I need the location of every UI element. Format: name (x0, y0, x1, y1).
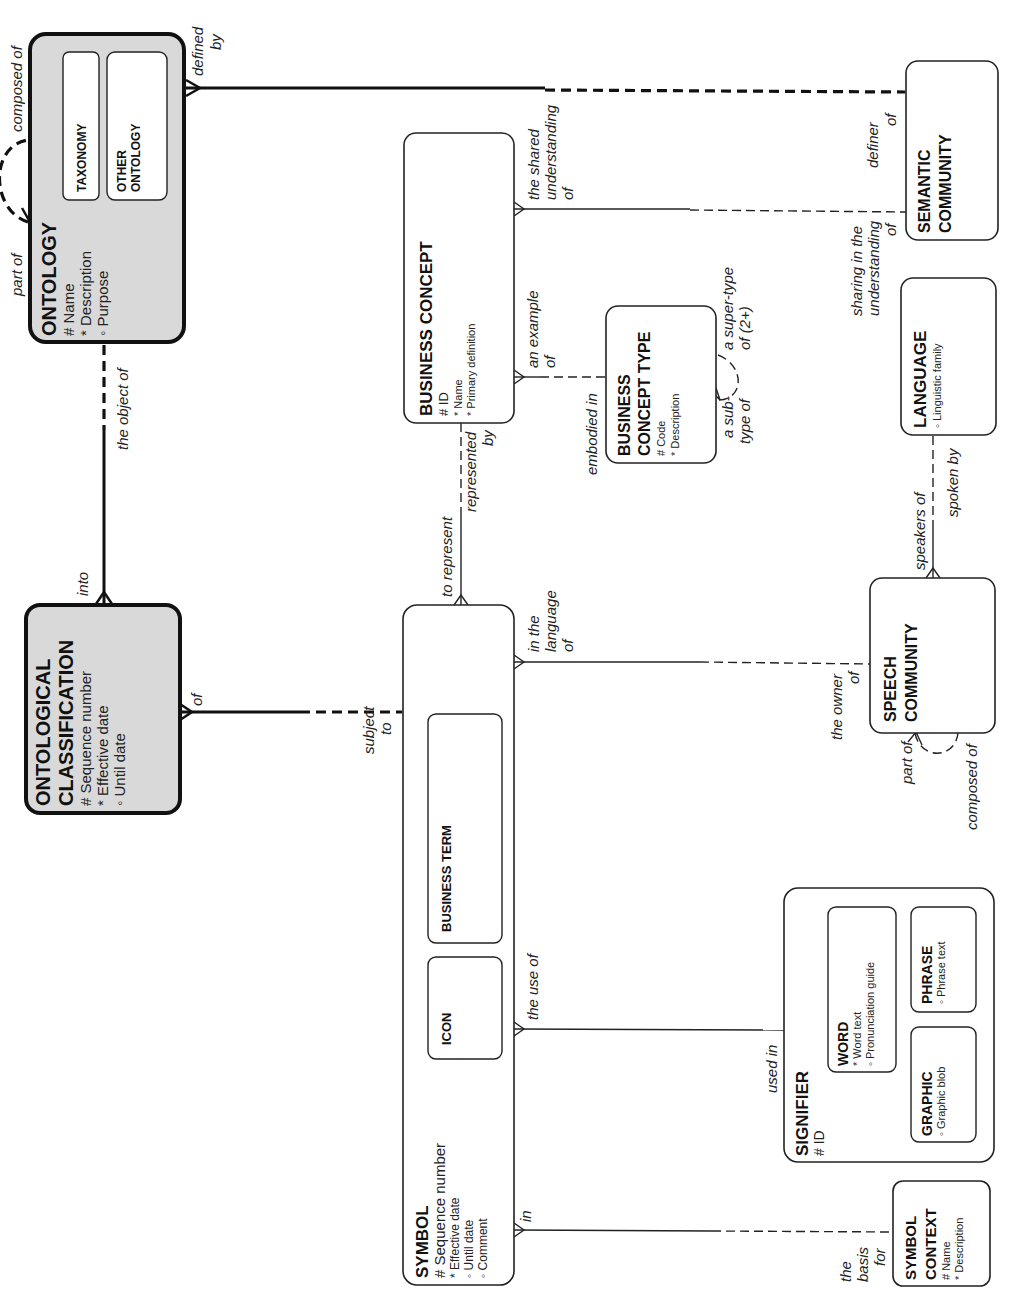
label-owner: the owner (828, 673, 845, 740)
concept-type-title-1: BUSINESS (616, 374, 633, 456)
classification-attr-until: ◦ Until date (111, 733, 128, 806)
label-of: of (188, 692, 205, 706)
rel-concept-semantic (514, 202, 906, 216)
label-owner-of: of (845, 670, 862, 684)
symbol-attr-effective: * Effective date (448, 1197, 462, 1278)
label-use-of: the use of (524, 952, 541, 1020)
phrase-attr-text: ◦ Phrase text (935, 941, 947, 1004)
symbol-context-attr-description: * Description (953, 1218, 965, 1280)
language-attr-family: ◦ Linguistic family (931, 343, 943, 428)
speech-community-title-2: COMMUNITY (903, 623, 920, 722)
business-term-title: BUSINESS TERM (439, 825, 454, 932)
rel-speech-self (908, 732, 958, 753)
label-into: into (74, 572, 91, 596)
entity-ontological-classification[interactable]: ONTOLOGICAL CLASSIFICATION # Sequence nu… (26, 605, 180, 813)
rel-symbol-speech (514, 655, 870, 669)
graphic-title: GRAPHIC (919, 1071, 935, 1136)
label-understanding-b-of: of (882, 222, 899, 236)
label-embodied-in: embodied in (583, 393, 600, 475)
phrase-title: PHRASE (919, 946, 935, 1004)
entity-ontology[interactable]: ONTOLOGY # Name * Description ◦ Purpose … (30, 34, 184, 342)
business-concept-attr-name: * Name (452, 379, 464, 416)
ontology-attr-purpose: ◦ Purpose (94, 271, 111, 336)
label-by: by (207, 33, 224, 50)
er-diagram: ONTOLOGY # Name * Description ◦ Purpose … (0, 0, 1020, 1291)
ontology-attr-name: # Name (60, 283, 77, 336)
classification-attr-seq: # Sequence number (77, 671, 94, 806)
business-concept-attr-definition: * Primary definition (465, 324, 477, 416)
label-language: language (542, 590, 559, 652)
business-concept-attr-id: # ID (436, 392, 451, 416)
entity-business-concept[interactable]: BUSINESS CONCEPT # ID * Name * Primary d… (404, 133, 514, 423)
signifier-attr-id: # ID (811, 1130, 827, 1156)
concept-type-attr-description: * Description (669, 394, 681, 456)
taxonomy-title: TAXONOMY (75, 124, 89, 192)
label-in-the: in the (525, 615, 542, 652)
graphic-attr-blob: ◦ Graphic blob (935, 1067, 947, 1136)
classification-title-2: CLASSIFICATION (55, 640, 77, 806)
label-the: the (837, 1261, 854, 1282)
label-sub: a sub- (719, 396, 736, 438)
label-speakers-of: speakers of (911, 491, 928, 570)
word-attr-pronunciation: ◦ Pronunciation guide (864, 962, 876, 1066)
label-understanding-b: understanding (865, 220, 882, 316)
speech-community-title-1: SPEECH (882, 656, 899, 722)
entity-semantic-community[interactable]: SEMANTIC COMMUNITY (906, 61, 998, 240)
word-title: WORD (835, 1022, 851, 1066)
concept-type-title-2: CONCEPT TYPE (636, 331, 653, 456)
entity-symbol[interactable]: ICON BUSINESS TERM SYMBOL # Sequence num… (403, 605, 514, 1285)
label-example-of: of (541, 354, 558, 368)
entity-language[interactable]: LANGUAGE ◦ Linguistic family (901, 278, 996, 435)
label-type-of: type of (736, 397, 753, 444)
word-attr-text: * Word text (851, 1012, 863, 1066)
label-subject-to: to (377, 722, 394, 735)
semantic-community-title-1: SEMANTIC (916, 149, 933, 233)
label-definer: definer (864, 121, 881, 168)
label-speech-composed-of: composed of (963, 742, 980, 830)
label-basis-for: for (871, 1247, 888, 1266)
classification-attr-effective: * Effective date (94, 705, 111, 806)
label-defined: defined (189, 26, 206, 76)
symbol-context-title-2: CONTEXT (922, 1208, 939, 1280)
entity-speech-community[interactable]: SPEECH COMMUNITY (870, 578, 995, 733)
label-object-of: the object of (114, 366, 131, 450)
label-understanding-a-of: of (559, 186, 576, 200)
label-understanding-a: understanding (542, 104, 559, 200)
label-subject: subject (360, 706, 377, 754)
label-ontology-composed-of: composed of (8, 44, 25, 132)
business-concept-title: BUSINESS CONCEPT (417, 241, 436, 416)
rel-ontology-classification (96, 345, 112, 604)
label-speech-part-of: part of (898, 740, 915, 785)
icon-title: ICON (439, 1013, 454, 1046)
rel-ontology-semantic-community (186, 80, 905, 96)
label-language-of: of (559, 638, 576, 652)
label-ontology-part-of: part of (8, 252, 25, 297)
rel-symbol-signifier (514, 1022, 784, 1036)
symbol-title: SYMBOL (413, 1205, 432, 1278)
symbol-context-title-1: SYMBOL (902, 1216, 919, 1280)
other-ontology-title-2: ONTOLOGY (129, 124, 143, 192)
ontology-attr-description: * Description (77, 251, 94, 336)
other-ontology-title-1: OTHER (115, 150, 129, 192)
label-represented-by: by (479, 429, 496, 446)
label-sharing: sharing in the (848, 226, 865, 316)
signifier-title: SIGNIFIER (793, 1071, 812, 1156)
rel-language-speech (926, 436, 940, 578)
label-example: an example (524, 290, 541, 368)
symbol-attr-comment: ◦ Comment (476, 1218, 490, 1278)
language-title: LANGUAGE (911, 331, 930, 428)
rel-concept-type (514, 370, 606, 384)
entity-symbol-context[interactable]: SYMBOL CONTEXT # Name * Description (893, 1181, 990, 1286)
label-super-type: a super-type (719, 267, 736, 350)
rel-symbol-context (514, 1223, 893, 1237)
semantic-community-title-2: COMMUNITY (937, 134, 954, 233)
label-used-in: used in (763, 1045, 780, 1093)
label-in: in (517, 1210, 534, 1222)
entity-signifier[interactable]: SIGNIFIER # ID WORD * Word text ◦ Pronun… (784, 888, 994, 1162)
concept-type-attr-code: # Code (655, 421, 667, 456)
entity-business-concept-type[interactable]: BUSINESS CONCEPT TYPE # Code * Descripti… (606, 306, 716, 463)
symbol-context-attr-name: # Name (940, 1241, 952, 1280)
label-shared: the shared (525, 128, 542, 200)
ontology-title: ONTOLOGY (38, 221, 60, 336)
label-spoken-by: spoken by (944, 447, 961, 517)
